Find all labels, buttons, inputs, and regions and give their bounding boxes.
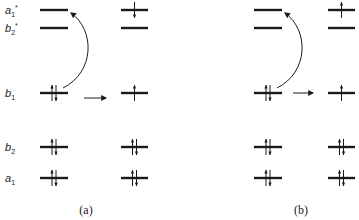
caption-b: (b) bbox=[294, 203, 308, 217]
label-b1: b1 bbox=[5, 87, 15, 101]
label-a1-star: a1* bbox=[5, 4, 18, 18]
electron-spins bbox=[52, 2, 344, 186]
mo-diagram: a1* b2* b1 b2 a1 (a) (b) bbox=[0, 0, 359, 220]
excitation-arrow-a bbox=[63, 13, 88, 88]
energy-levels bbox=[40, 10, 355, 178]
label-b2-star: b2* bbox=[5, 22, 18, 36]
level-labels: a1* b2* b1 b2 a1 bbox=[5, 4, 18, 186]
excitation-arrow-b bbox=[277, 13, 302, 88]
caption-a: (a) bbox=[79, 203, 92, 217]
label-b2: b2 bbox=[5, 141, 15, 155]
label-a1: a1 bbox=[5, 172, 15, 186]
